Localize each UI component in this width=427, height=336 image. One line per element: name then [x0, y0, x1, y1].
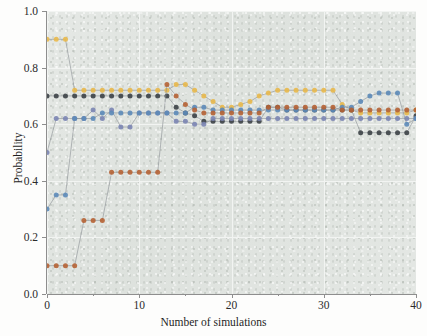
series-steel-blue-point: [183, 110, 188, 115]
series-yellow-point: [100, 88, 105, 93]
x-tick-label-3: 30: [318, 299, 330, 311]
series-charcoal-point: [47, 93, 50, 98]
series-charcoal-point: [118, 93, 123, 98]
y-tick-1: [42, 237, 46, 238]
series-charcoal-point: [100, 93, 105, 98]
series-rust-point: [395, 108, 400, 113]
series-yellow-point: [211, 99, 216, 104]
series-charcoal-point: [386, 130, 391, 135]
series-steel-blue-point: [63, 192, 68, 197]
series-rust-point: [54, 263, 59, 268]
series-rust-point: [404, 108, 409, 113]
series-rust-point: [303, 105, 308, 110]
y-axis-title: Probability: [12, 78, 24, 238]
series-steel-blue-point: [358, 99, 363, 104]
series-rust-point: [100, 218, 105, 223]
x-tick-label-0: 0: [44, 299, 50, 311]
series-steel-blue-point: [155, 110, 160, 115]
series-slate-blue-point: [128, 125, 133, 130]
series-yellow-point: [174, 82, 179, 87]
y-tick-label-0: 0.0: [4, 288, 38, 300]
series-rust-point: [312, 105, 317, 110]
series-steel-blue-point: [109, 110, 114, 115]
series-charcoal-point: [146, 93, 151, 98]
series-steel-blue-point: [367, 93, 372, 98]
series-rust-point: [349, 108, 354, 113]
series-steel-blue-point: [146, 110, 151, 115]
series-slate-blue-point: [183, 119, 188, 124]
series-yellow-point: [284, 88, 289, 93]
series-rust-point: [118, 170, 123, 175]
series-rust-point: [284, 105, 289, 110]
series-charcoal-point: [72, 93, 77, 98]
series-charcoal-point: [137, 93, 142, 98]
series-steel-blue-point: [118, 110, 123, 115]
series-yellow-point: [257, 93, 262, 98]
series-steel-blue-point: [91, 116, 96, 121]
series-rust-point: [386, 108, 391, 113]
series-slate-blue-point: [247, 116, 252, 121]
series-yellow-point: [54, 37, 59, 42]
x-tick-0: [47, 294, 48, 298]
series-slate-blue-point: [294, 116, 299, 121]
series-rust-point: [192, 108, 197, 113]
series-yellow-point: [247, 99, 252, 104]
x-minor-tick-0: [93, 294, 94, 296]
series-slate-blue-point: [395, 116, 400, 121]
series-rust-point: [340, 108, 345, 113]
series-yellow-point: [91, 88, 96, 93]
series-slate-blue-point: [377, 116, 382, 121]
series-yellow-point: [266, 91, 271, 96]
series-rust-point: [377, 108, 382, 113]
series-rust-point: [91, 218, 96, 223]
series-rust-point: [229, 110, 234, 115]
series-steel-blue-point: [377, 91, 382, 96]
series-steel-blue-point: [100, 110, 105, 115]
series-rust-point: [137, 170, 142, 175]
series-rust-point: [164, 82, 169, 87]
series-steel-blue-point: [81, 116, 86, 121]
series-steel-blue-point: [54, 192, 59, 197]
series-steel-blue-point: [72, 116, 77, 121]
series-yellow-point: [201, 93, 206, 98]
series-rust-point: [358, 108, 363, 113]
series-slate-blue-point: [63, 116, 68, 121]
x-tick-label-4: 40: [410, 299, 422, 311]
series-charcoal-point: [155, 93, 160, 98]
series-slate-blue-point: [358, 116, 363, 121]
x-axis-title: Number of simulations: [0, 316, 427, 328]
series-steel-blue-point: [128, 110, 133, 115]
series-slate-blue-point: [220, 116, 225, 121]
series-steel-blue-point: [404, 122, 409, 127]
series-slate-blue-point: [201, 122, 206, 127]
series-yellow-point: [238, 102, 243, 107]
series-steel-blue-point: [137, 110, 142, 115]
series-rust-point: [220, 110, 225, 115]
series-slate-blue-point: [386, 116, 391, 121]
series-rust-point: [414, 108, 417, 113]
series-charcoal-point: [109, 93, 114, 98]
x-tick-4: [416, 294, 417, 298]
series-yellow-point: [164, 88, 169, 93]
series-yellow-point: [63, 37, 68, 42]
series-rust-point: [47, 263, 50, 268]
series-yellow-point: [72, 88, 77, 93]
series-steel-blue-point: [174, 110, 179, 115]
series-yellow-point: [47, 37, 50, 42]
series-rust-point: [247, 110, 252, 115]
series-rust-point: [183, 102, 188, 107]
series-charcoal-point: [367, 130, 372, 135]
series-rust-point: [174, 93, 179, 98]
series-rust-point: [367, 108, 372, 113]
series-slate-blue-point: [340, 116, 345, 121]
series-yellow-point: [183, 82, 188, 87]
series-yellow-point: [109, 88, 114, 93]
series-yellow-point: [146, 88, 151, 93]
y-tick-4: [42, 68, 46, 69]
series-slate-blue-point: [174, 119, 179, 124]
plot-area: [47, 11, 416, 294]
y-tick-5: [42, 11, 46, 12]
series-yellow-point: [137, 88, 142, 93]
series-yellow-point: [294, 88, 299, 93]
x-minor-tick-1: [185, 294, 186, 296]
